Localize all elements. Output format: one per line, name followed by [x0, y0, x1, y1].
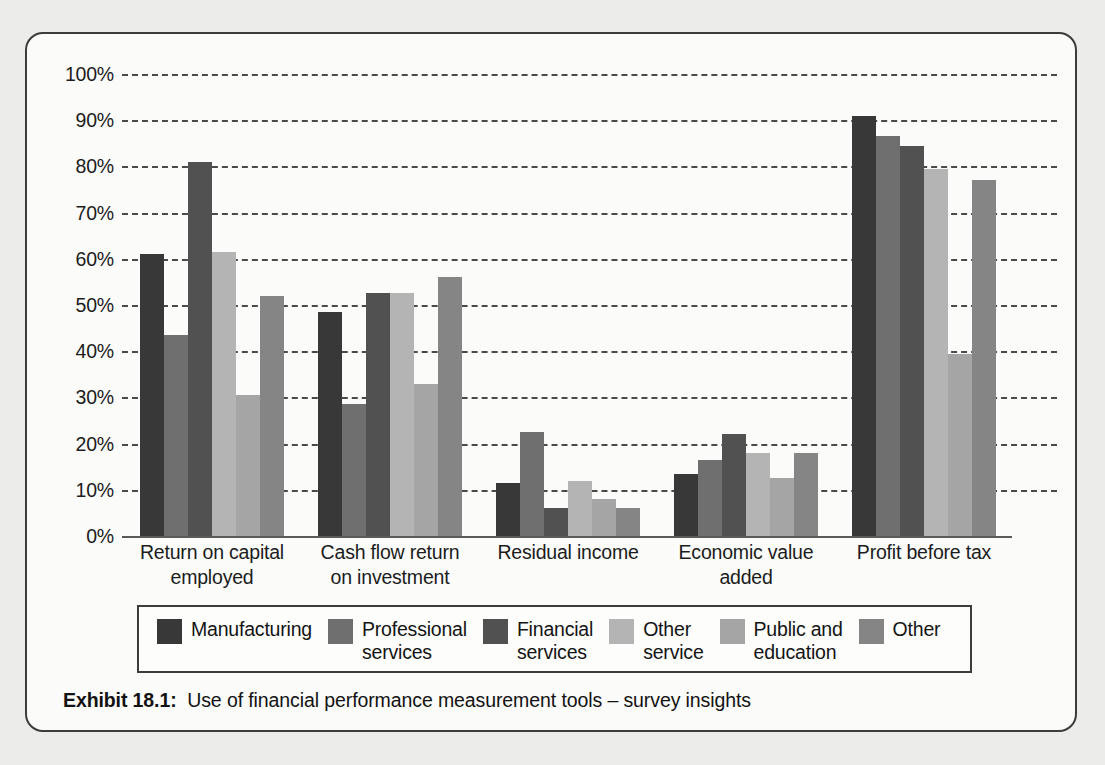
bar[interactable] — [260, 296, 284, 536]
x-axis-category-labels: Return on capitalemployedCash flow retur… — [123, 538, 1013, 596]
bar[interactable] — [770, 478, 794, 536]
bar[interactable] — [568, 481, 592, 536]
legend-item-label: Public and education — [754, 618, 843, 664]
bar[interactable] — [972, 180, 996, 536]
y-axis-tick-100: 100% — [44, 63, 114, 86]
caption-text: Use of financial performance measurement… — [187, 689, 751, 711]
bar[interactable] — [948, 354, 972, 536]
legend-swatch-icon — [157, 619, 182, 644]
legend-item[interactable]: Other — [859, 618, 941, 644]
caption-label: Exhibit 18.1: — [63, 689, 177, 711]
y-axis-tick-40: 40% — [44, 340, 114, 363]
legend-swatch-icon — [720, 619, 745, 644]
bar[interactable] — [164, 335, 188, 536]
bar[interactable] — [390, 293, 414, 536]
chart-legend: ManufacturingProfessional servicesFinanc… — [137, 605, 972, 673]
bar[interactable] — [366, 293, 390, 536]
bar-group — [496, 34, 640, 536]
bar-group — [318, 34, 462, 536]
bar[interactable] — [236, 395, 260, 536]
bar[interactable] — [592, 499, 616, 536]
legend-item[interactable]: Professional services — [328, 618, 467, 664]
bar[interactable] — [520, 432, 544, 536]
bar-group — [852, 34, 996, 536]
y-axis-tick-50: 50% — [44, 294, 114, 317]
legend-swatch-icon — [483, 619, 508, 644]
y-axis-tick-90: 90% — [44, 109, 114, 132]
bar-group — [674, 34, 818, 536]
legend-item[interactable]: Financial services — [483, 618, 593, 664]
y-axis-tick-10: 10% — [44, 478, 114, 501]
exhibit-caption: Exhibit 18.1: Use of financial performan… — [63, 689, 1053, 712]
legend-swatch-icon — [328, 619, 353, 644]
legend-item-label: Other service — [643, 618, 703, 664]
legend-item[interactable]: Public and education — [720, 618, 843, 664]
y-axis-tick-80: 80% — [44, 155, 114, 178]
bar[interactable] — [318, 312, 342, 536]
legend-item-label: Manufacturing — [191, 618, 312, 641]
bar-group — [140, 34, 284, 536]
bar[interactable] — [674, 474, 698, 536]
x-axis-category-label: Profit before tax — [817, 540, 1031, 565]
bar[interactable] — [924, 169, 948, 536]
y-axis-tick-labels: 0%10%20%30%40%50%60%70%80%90%100% — [32, 34, 114, 594]
legend-item-label: Other — [893, 618, 941, 641]
chart-plot-area: 0%10%20%30%40%50%60%70%80%90%100% Return… — [27, 34, 1079, 594]
x-axis-category-label-line: added — [639, 565, 853, 590]
bar[interactable] — [698, 460, 722, 536]
bar[interactable] — [852, 116, 876, 536]
bar-groups-container — [123, 34, 1013, 536]
legend-item-label: Financial services — [517, 618, 593, 664]
y-axis-tick-70: 70% — [44, 201, 114, 224]
y-axis-tick-60: 60% — [44, 247, 114, 270]
bar[interactable] — [342, 404, 366, 536]
bar[interactable] — [438, 277, 462, 536]
bar[interactable] — [794, 453, 818, 536]
x-axis-category-label-line: on investment — [283, 565, 497, 590]
legend-swatch-icon — [859, 619, 884, 644]
bar[interactable] — [188, 162, 212, 536]
legend-swatch-icon — [609, 619, 634, 644]
legend-item[interactable]: Manufacturing — [157, 618, 312, 644]
bar[interactable] — [212, 252, 236, 536]
y-axis-tick-20: 20% — [44, 432, 114, 455]
bar[interactable] — [140, 254, 164, 536]
bar[interactable] — [746, 453, 770, 536]
y-axis-tick-30: 30% — [44, 386, 114, 409]
bar[interactable] — [900, 146, 924, 536]
legend-item-label: Professional services — [362, 618, 467, 664]
bar[interactable] — [616, 508, 640, 536]
x-axis-category-label-line: Profit before tax — [817, 540, 1031, 565]
legend-item[interactable]: Other service — [609, 618, 703, 664]
bar[interactable] — [722, 434, 746, 536]
bar[interactable] — [414, 384, 438, 536]
bar[interactable] — [544, 508, 568, 536]
exhibit-frame: 0%10%20%30%40%50%60%70%80%90%100% Return… — [25, 32, 1077, 732]
bar[interactable] — [496, 483, 520, 536]
y-axis-tick-0: 0% — [44, 525, 114, 548]
bar[interactable] — [876, 136, 900, 536]
page: 0%10%20%30%40%50%60%70%80%90%100% Return… — [0, 0, 1105, 765]
